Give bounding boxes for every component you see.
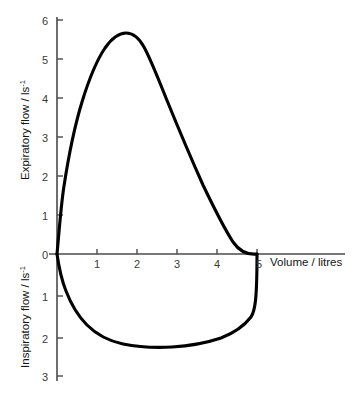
y-tick-label-upper-3: 3 bbox=[42, 132, 48, 144]
y-tick-label-upper-1: 1 bbox=[42, 210, 48, 222]
y-axis-title-expiratory: Expiratory flow / ls-1 bbox=[18, 80, 31, 180]
x-axis-title: Volume / litres bbox=[270, 256, 342, 268]
x-tick-label-4: 4 bbox=[214, 258, 220, 270]
y-tick-label-origin: 0 bbox=[42, 249, 48, 261]
chart-canvas: 1 2 3 4 5 0 1 2 3 4 5 6 1 2 3 Volume / l… bbox=[0, 0, 359, 396]
x-tick-label-5: 5 bbox=[256, 258, 262, 270]
y-tick-marks-upper bbox=[57, 20, 63, 215]
y-tick-label-upper-2: 2 bbox=[42, 171, 48, 183]
expiratory-limb-curve bbox=[57, 33, 257, 254]
x-tick-label-2: 2 bbox=[134, 258, 140, 270]
y-axis-title-inspiratory: Inspiratory flow / ls-1 bbox=[18, 266, 31, 368]
y-tick-marks-lower bbox=[57, 296, 63, 376]
y-tick-label-upper-5: 5 bbox=[42, 54, 48, 66]
y-axis-title-expiratory-text: Expiratory flow / ls bbox=[19, 86, 31, 180]
y-axis-title-inspiratory-text: Inspiratory flow / ls bbox=[19, 272, 31, 367]
x-tick-label-1: 1 bbox=[94, 258, 100, 270]
y-tick-label-upper-4: 4 bbox=[42, 93, 48, 105]
y-tick-label-upper-6: 6 bbox=[42, 15, 48, 27]
inspiratory-limb-curve bbox=[57, 254, 257, 347]
y-tick-label-lower-2: 2 bbox=[42, 333, 48, 345]
x-tick-label-3: 3 bbox=[174, 258, 180, 270]
y-axis-title-inspiratory-superscript: -1 bbox=[18, 266, 27, 273]
flow-volume-loop-chart: 1 2 3 4 5 0 1 2 3 4 5 6 1 2 3 Volume / l… bbox=[0, 0, 359, 396]
y-tick-label-lower-1: 1 bbox=[42, 291, 48, 303]
y-axis-title-expiratory-superscript: -1 bbox=[18, 80, 27, 87]
y-tick-label-lower-3: 3 bbox=[42, 371, 48, 383]
